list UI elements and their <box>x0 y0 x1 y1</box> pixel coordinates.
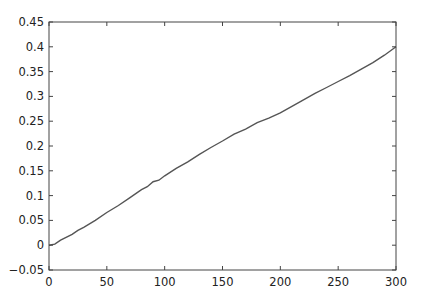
y-tick-label: 0.45 <box>18 15 44 29</box>
x-tick-label: 250 <box>327 275 349 289</box>
y-tick-label: 0.1 <box>26 189 44 203</box>
y-tick-label: 0.15 <box>18 164 44 178</box>
y-tick-label: 0.25 <box>18 114 44 128</box>
x-tick-label: 150 <box>212 275 234 289</box>
x-tick-label: 0 <box>45 275 52 289</box>
y-tick-label: −0.05 <box>9 263 44 277</box>
series-line <box>49 47 396 245</box>
y-tick-label: 0.3 <box>26 89 44 103</box>
y-tick-label: 0.4 <box>26 40 44 54</box>
x-tick-label: 100 <box>154 275 176 289</box>
x-axis: 050100150200250300 <box>45 22 407 289</box>
y-tick-label: 0.2 <box>26 139 44 153</box>
data-line <box>49 47 396 245</box>
line-chart: 050100150200250300 −0.0500.050.10.150.20… <box>0 0 421 299</box>
x-tick-label: 50 <box>100 275 115 289</box>
y-tick-label: 0.05 <box>18 213 44 227</box>
x-tick-label: 300 <box>385 275 407 289</box>
y-tick-label: 0 <box>37 238 44 252</box>
y-tick-label: 0.35 <box>18 65 44 79</box>
x-tick-label: 200 <box>269 275 291 289</box>
axes-box <box>49 22 396 270</box>
